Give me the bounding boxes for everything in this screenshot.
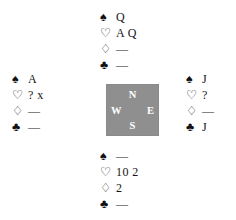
hand-north: ♠ Q ♡ A Q ♢ — ♣ — [100, 9, 137, 73]
north-spade-ranks: Q [113, 9, 125, 25]
north-diamond-ranks: — [113, 41, 128, 57]
diamond-icon: ♢ [100, 41, 113, 57]
south-spade-ranks: — [113, 148, 128, 164]
west-spade-row: ♠ A [12, 71, 44, 87]
spade-icon: ♠ [100, 148, 113, 164]
hand-south: ♠ — ♡ 10 2 ♢ 2 ♣ — [100, 148, 139, 212]
south-heart-row: ♡ 10 2 [100, 164, 139, 180]
east-club-row: ♣ J [186, 119, 214, 135]
compass-west-label: W [111, 105, 122, 116]
heart-icon: ♡ [186, 87, 199, 103]
east-club-ranks: J [199, 119, 207, 135]
club-icon: ♣ [12, 119, 25, 135]
west-spade-ranks: A [25, 71, 37, 87]
diamond-icon: ♢ [12, 103, 25, 119]
south-diamond-ranks: 2 [113, 180, 122, 196]
east-diamond-ranks: — [199, 103, 214, 119]
north-diamond-row: ♢ — [100, 41, 137, 57]
east-heart-ranks: ? [199, 87, 208, 103]
compass-east-label: E [147, 105, 154, 116]
west-diamond-row: ♢ — [12, 103, 44, 119]
west-club-row: ♣ — [12, 119, 44, 135]
east-heart-row: ♡ ? [186, 87, 214, 103]
hand-west: ♠ A ♡ ? x ♢ — ♣ — [12, 71, 44, 135]
west-diamond-ranks: — [25, 103, 40, 119]
west-club-ranks: — [25, 119, 40, 135]
spade-icon: ♠ [100, 9, 113, 25]
north-club-ranks: — [113, 57, 128, 73]
east-diamond-row: ♢ — [186, 103, 214, 119]
west-heart-ranks: ? x [25, 87, 44, 103]
club-icon: ♣ [100, 196, 113, 212]
south-diamond-row: ♢ 2 [100, 180, 139, 196]
spade-icon: ♠ [186, 71, 199, 87]
east-spade-ranks: J [199, 71, 207, 87]
east-spade-row: ♠ J [186, 71, 214, 87]
south-club-ranks: — [113, 196, 128, 212]
south-spade-row: ♠ — [100, 148, 139, 164]
west-heart-row: ♡ ? x [12, 87, 44, 103]
heart-icon: ♡ [100, 164, 113, 180]
north-spade-row: ♠ Q [100, 9, 137, 25]
hand-east: ♠ J ♡ ? ♢ — ♣ J [186, 71, 214, 135]
diamond-icon: ♢ [100, 180, 113, 196]
south-club-row: ♣ — [100, 196, 139, 212]
north-club-row: ♣ — [100, 57, 137, 73]
compass-box: N W E S [106, 84, 159, 136]
compass-north-label: N [106, 89, 159, 100]
heart-icon: ♡ [100, 25, 113, 41]
club-icon: ♣ [186, 119, 199, 135]
club-icon: ♣ [100, 57, 113, 73]
north-heart-ranks: A Q [113, 25, 137, 41]
north-heart-row: ♡ A Q [100, 25, 137, 41]
compass-south-label: S [106, 120, 159, 131]
south-heart-ranks: 10 2 [113, 164, 139, 180]
heart-icon: ♡ [12, 87, 25, 103]
diamond-icon: ♢ [186, 103, 199, 119]
spade-icon: ♠ [12, 71, 25, 87]
bridge-hand-diagram: ♠ Q ♡ A Q ♢ — ♣ — ♠ A ♡ ? x ♢ — ♣ [0, 0, 236, 220]
